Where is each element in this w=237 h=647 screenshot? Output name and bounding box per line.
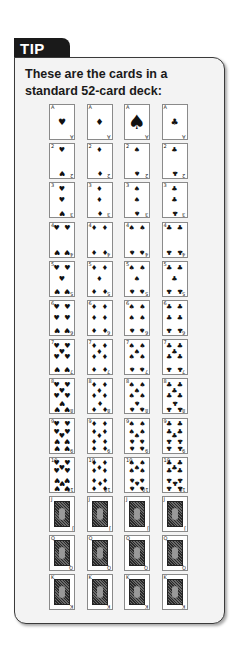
hearts-icon: ♥ — [64, 264, 70, 271]
card-2-of-spades: 22♠♠ — [124, 143, 150, 179]
clubs-icon: ♣ — [177, 354, 183, 361]
clubs-icon: ♣ — [177, 404, 183, 411]
hearts-icon: ♥ — [53, 264, 59, 271]
diamonds-icon: ♦ — [96, 197, 102, 204]
face-card-illustration — [54, 579, 70, 605]
clubs-icon: ♣ — [177, 303, 183, 310]
spades-pips: ♠♠♠ — [128, 186, 146, 214]
spades-pips: ♠♠♠♠♠ — [128, 265, 146, 293]
spades-pips: ♠♠♠♠♠♠♠♠ — [128, 382, 146, 410]
clubs-pips: ♣ — [166, 108, 184, 136]
card-j-of-clubs: JJ — [162, 496, 188, 532]
card-j-of-diamonds: JJ — [87, 496, 113, 532]
clubs-icon: ♣ — [177, 264, 183, 271]
diamonds-icon: ♦ — [102, 326, 108, 333]
clubs-icon: ♣ — [177, 286, 183, 293]
diamonds-pips: ♦♦♦♦♦ — [91, 265, 109, 293]
hearts-icon: ♥ — [64, 365, 70, 372]
card-k-of-spades: KK — [124, 574, 150, 610]
hearts-icon: ♥ — [64, 247, 70, 254]
spades-icon: ♠ — [139, 404, 145, 411]
spades-icon: ♠ — [128, 286, 134, 293]
clubs-pips: ♣♣ — [166, 147, 184, 175]
clubs-icon: ♣ — [177, 365, 183, 372]
clubs-icon: ♣ — [171, 146, 177, 153]
hearts-icon: ♥ — [64, 286, 70, 293]
spades-icon: ♠ — [139, 382, 145, 389]
card-5-of-spades: 55♠♠♠♠♠ — [124, 261, 150, 297]
hearts-icon: ♥ — [59, 169, 65, 176]
clubs-icon: ♣ — [166, 365, 172, 372]
diamonds-icon: ♦ — [96, 169, 102, 176]
hearts-pips: ♥ — [53, 108, 71, 136]
clubs-icon: ♣ — [177, 483, 183, 490]
hearts-pips: ♥♥ — [53, 147, 71, 175]
clubs-icon: ♣ — [177, 342, 183, 349]
spades-icon: ♠ — [139, 303, 145, 310]
clubs-pips: ♣♣♣♣♣♣♣ — [166, 343, 184, 371]
diamonds-icon: ♦ — [102, 436, 108, 443]
card-9-of-hearts: 99♥♥♥♥♥♥♥♥♥ — [49, 418, 75, 454]
hearts-pips: ♥♥♥♥♥♥♥♥♥ — [53, 422, 71, 450]
card-4-of-spades: 44♠♠♠♠ — [124, 222, 150, 258]
card-j-of-hearts: JJ — [49, 496, 75, 532]
diamonds-icon: ♦ — [102, 225, 108, 232]
card-7-of-clubs: 77♣♣♣♣♣♣♣ — [162, 339, 188, 375]
clubs-pips: ♣♣♣♣♣♣ — [166, 304, 184, 332]
spades-pips: ♠♠♠♠♠♠♠♠♠♠ — [128, 461, 146, 489]
clubs-icon: ♣ — [177, 467, 183, 474]
diamonds-icon: ♦ — [102, 467, 108, 474]
clubs-icon: ♣ — [177, 225, 183, 232]
face-card-illustration — [167, 501, 183, 527]
card-3-of-spades: 33♠♠♠ — [124, 182, 150, 218]
card-a-of-spades: AA♠ — [124, 104, 150, 140]
hearts-icon: ♥ — [53, 483, 59, 490]
hearts-icon: ♥ — [64, 483, 70, 490]
card-3-of-diamonds: 33♦♦♦ — [87, 182, 113, 218]
face-card-illustration — [129, 540, 145, 566]
card-index-bottom: J — [72, 526, 73, 531]
hearts-icon: ♥ — [53, 365, 59, 372]
clubs-icon: ♣ — [166, 315, 172, 322]
card-index-bottom: J — [147, 526, 148, 531]
diamonds-icon: ♦ — [91, 264, 97, 271]
hearts-icon: ♥ — [64, 315, 70, 322]
card-index: J — [89, 497, 90, 502]
hearts-icon: ♥ — [64, 436, 70, 443]
diamonds-pips: ♦♦♦♦♦♦♦♦♦ — [91, 422, 109, 450]
card-2-of-clubs: 22♣♣ — [162, 143, 188, 179]
clubs-icon: ♣ — [166, 436, 172, 443]
card-6-of-diamonds: 66♦♦♦♦♦♦ — [87, 300, 113, 336]
card-7-of-hearts: 77♥♥♥♥♥♥♥ — [49, 339, 75, 375]
face-card-illustration — [54, 501, 70, 527]
spades-icon: ♠ — [128, 354, 134, 361]
card-q-of-diamonds: QQ — [87, 535, 113, 571]
diamonds-icon: ♦ — [91, 444, 97, 451]
hearts-icon: ♥ — [59, 208, 65, 215]
card-j-of-spades: JJ — [124, 496, 150, 532]
clubs-pips: ♣♣♣♣♣♣♣♣♣♣ — [166, 461, 184, 489]
card-index-bottom: J — [184, 526, 185, 531]
card-6-of-clubs: 66♣♣♣♣♣♣ — [162, 300, 188, 336]
card-k-of-clubs: KK — [162, 574, 188, 610]
clubs-icon: ♣ — [166, 225, 172, 232]
spades-icon: ♠ — [139, 467, 145, 474]
hearts-icon: ♥ — [58, 119, 66, 126]
spades-icon: ♠ — [128, 483, 134, 490]
diamonds-pips: ♦♦♦ — [91, 186, 109, 214]
hearts-icon: ♥ — [64, 342, 70, 349]
card-index: J — [51, 497, 52, 502]
hearts-icon: ♥ — [53, 326, 59, 333]
spades-icon: ♠ — [128, 404, 134, 411]
diamonds-icon: ♦ — [91, 286, 97, 293]
spades-pips: ♠♠♠♠♠♠ — [128, 304, 146, 332]
spades-icon: ♠ — [128, 444, 134, 451]
spades-icon: ♠ — [128, 315, 134, 322]
diamonds-icon: ♦ — [91, 326, 97, 333]
spades-icon: ♠ — [139, 247, 145, 254]
spades-icon: ♠ — [134, 146, 140, 153]
diamonds-pips: ♦♦♦♦♦♦♦♦♦♦ — [91, 461, 109, 489]
card-q-of-spades: QQ — [124, 535, 150, 571]
spades-icon: ♠ — [139, 436, 145, 443]
card-8-of-diamonds: 88♦♦♦♦♦♦♦♦ — [87, 378, 113, 414]
